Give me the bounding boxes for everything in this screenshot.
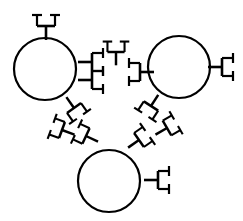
immune-complex-diagram — [0, 0, 243, 221]
figure-root — [0, 0, 243, 221]
particle-bottom — [78, 150, 140, 212]
particle-top-left — [14, 38, 76, 100]
particle-top-right — [148, 36, 210, 98]
